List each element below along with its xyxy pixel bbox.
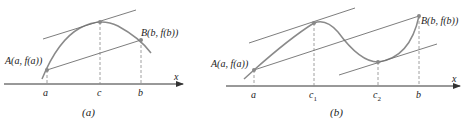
tangent-line-c2-b [339,44,437,75]
tick-b-a: b [138,87,143,98]
point-A-b [252,68,256,72]
tick-c1-b: c1 [309,89,317,103]
point-B-a [139,38,143,42]
caption-b: (b) [330,106,343,119]
point-A-label-a: A(a, f(a)) [4,55,43,67]
figure-a: x A(a, f(a)) B(b, f(b)) a c b (a) [4,10,183,119]
curve-a [42,22,151,79]
tick-c-a: c [97,87,102,98]
point-A-label-b: A(a, f(a)) [210,58,249,70]
tick-a-a: a [43,87,48,98]
figure-b: x A(a, f(a)) B(b, f(b)) a c1 c2 b (b) [210,8,460,119]
tick-c2-subscript: 2 [377,95,381,103]
x-axis-label-b: x [451,73,457,84]
mean-value-theorem-diagram: x A(a, f(a)) B(b, f(b)) a c b (a) x [0,0,465,123]
point-C-a [98,20,102,24]
point-C1-b [312,21,316,25]
tick-c2-b: c2 [373,89,381,103]
caption-a: (a) [82,106,95,119]
tangent-line-c1-b [249,8,355,43]
point-B-label-a: B(b, f(b)) [141,27,179,39]
tick-c1-subscript: 1 [313,95,317,103]
point-A-a [45,68,49,72]
curve-b [244,16,419,79]
tangent-line-a [43,10,136,39]
secant-line-b [254,16,419,70]
point-B-label-b: B(b, f(b)) [421,15,459,27]
x-axis-label-a: x [173,71,179,82]
point-C2-b [376,60,380,64]
tick-b-b: b [416,89,421,100]
tick-a-b: a [251,89,256,100]
